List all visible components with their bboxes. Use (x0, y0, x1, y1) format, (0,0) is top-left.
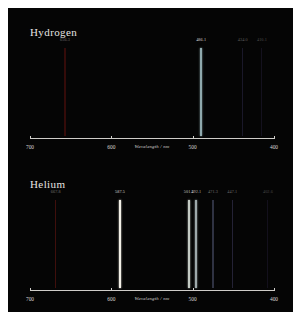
emission-line: 434.0 (242, 48, 243, 136)
emission-line-label: 492.1 (191, 189, 201, 194)
emission-line: 486.1 (200, 48, 203, 136)
axis-title-hydrogen: Wavelength / nm (30, 144, 274, 149)
emission-line-label: 402.6 (263, 189, 273, 194)
panel-title-hydrogen: Hydrogen (30, 26, 77, 38)
emission-line-label: 486.1 (196, 37, 206, 42)
panel-hydrogen: Hydrogen 656.3486.1434.0410.1 7006005004… (8, 8, 293, 160)
emission-line-label: 410.1 (257, 37, 267, 42)
emission-line-label: 656.3 (60, 37, 70, 42)
axis-tick (30, 136, 31, 139)
axis-title-helium: Wavelength / nm (30, 296, 274, 301)
axis-tick (30, 288, 31, 291)
emission-line: 667.8 (55, 200, 56, 288)
emission-line: 447.1 (232, 200, 233, 288)
axis-tick (111, 288, 112, 291)
emission-line: 402.6 (267, 200, 268, 288)
spectrum-helium: 667.8587.5501.5492.1471.3447.1402.6 (30, 200, 270, 288)
emission-line: 492.1 (195, 200, 197, 288)
axis-helium: 700600500400 (30, 290, 274, 291)
spectrum-hydrogen: 656.3486.1434.0410.1 (30, 48, 270, 136)
axis-tick (111, 136, 112, 139)
emission-line: 587.5 (119, 200, 122, 288)
emission-line-label: 667.8 (51, 189, 61, 194)
axis-tick (193, 288, 194, 291)
emission-line: 501.5 (188, 200, 190, 288)
axis-tick (274, 288, 275, 291)
axis-hydrogen: 700600500400 (30, 138, 274, 139)
axis-tick (274, 136, 275, 139)
emission-line-label: 471.3 (208, 189, 218, 194)
emission-line-label: 587.5 (115, 189, 125, 194)
axis-tick (193, 136, 194, 139)
emission-line: 410.1 (261, 48, 262, 136)
spectra-figure: Hydrogen 656.3486.1434.0410.1 7006005004… (8, 8, 293, 312)
emission-line-label: 447.1 (227, 189, 237, 194)
emission-line-label: 434.0 (238, 37, 248, 42)
panel-helium: Helium 667.8587.5501.5492.1471.3447.1402… (8, 160, 293, 312)
emission-line: 656.3 (64, 48, 66, 136)
emission-line: 471.3 (212, 200, 213, 288)
